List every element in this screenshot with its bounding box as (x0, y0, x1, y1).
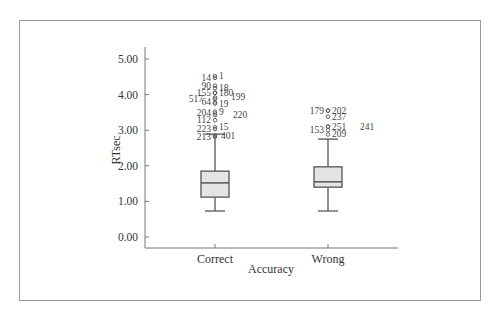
outlier-marker (326, 125, 330, 129)
boxes: 1419018155180517199641920492201122231521… (189, 71, 375, 211)
box-correct: 1419018155180517199641920492201122231521… (189, 71, 248, 211)
outlier-marker (326, 133, 330, 137)
outlier-label: 237 (332, 112, 347, 122)
y-tick-label: 1.00 (118, 195, 138, 207)
outlier-marker (326, 115, 330, 119)
outlier-label: 199 (231, 92, 246, 102)
y-tick-label: 3.00 (118, 124, 138, 136)
outlier-label: 64 (202, 97, 212, 107)
y-tick-label: 5.00 (118, 53, 138, 65)
x-tick-label: Wrong (312, 252, 345, 266)
outlier-marker (213, 86, 217, 90)
outlier-label: 209 (332, 129, 347, 139)
outlier-label: 153 (310, 125, 325, 135)
outlier-label: 213 (197, 132, 212, 142)
outlier-marker (326, 109, 330, 113)
outlier-label: 179 (310, 106, 325, 116)
box-wrong: 179202237251241153209 (310, 106, 375, 211)
outlier-label: 9 (219, 107, 224, 117)
outlier-label: 220 (233, 110, 248, 120)
outlier-label: 1 (219, 71, 224, 81)
outlier-label: 401 (221, 131, 236, 141)
outlier-marker (213, 91, 217, 95)
x-tick-label: Correct (197, 252, 234, 266)
box-plot-chart: 0.001.002.003.004.005.00CorrectWrong 141… (0, 0, 499, 315)
iqr-box (201, 171, 229, 197)
x-axis-title: Accuracy (248, 262, 294, 276)
y-tick-label: 0.00 (118, 231, 138, 243)
axes: 0.001.002.003.004.005.00CorrectWrong (118, 47, 398, 266)
outlier-marker (326, 128, 330, 132)
y-axis-title: RTsec (109, 135, 123, 164)
outlier-marker (213, 118, 217, 122)
outlier-label: 241 (360, 122, 375, 132)
iqr-box (314, 167, 342, 187)
y-tick-label: 4.00 (118, 89, 138, 101)
